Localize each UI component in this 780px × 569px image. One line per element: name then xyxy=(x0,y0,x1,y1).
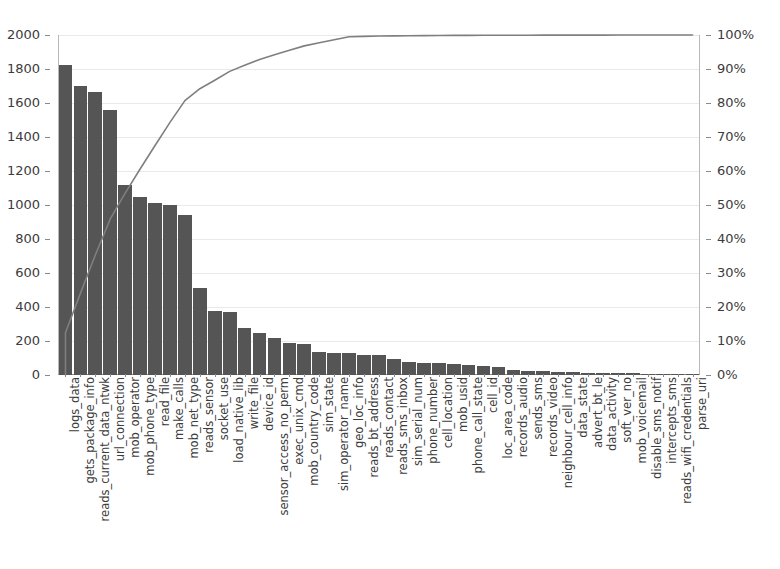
x-axis-tick-label: reads_contact xyxy=(384,377,396,458)
y-axis-right-tick-label: 90% xyxy=(717,62,746,75)
x-axis-labels: logs_datagets_package_inforeads_current_… xyxy=(58,377,700,567)
x-axis-tick-label: sends_sms xyxy=(533,377,545,440)
x-axis-tick-label: exec_unix_cmd xyxy=(294,377,306,465)
x-axis-tick-label: phone_number xyxy=(428,377,440,464)
y-axis-right-tick xyxy=(706,137,711,138)
x-axis-tick xyxy=(454,374,455,377)
y-axis-left-tick xyxy=(45,69,50,70)
x-axis-tick-label: records_audio xyxy=(518,377,530,457)
x-axis-tick-label: mob_country_code xyxy=(309,377,321,486)
y-axis-right-tick-label: 40% xyxy=(717,232,746,245)
y-axis-left-tick-label: 1400 xyxy=(7,130,40,143)
x-axis-tick xyxy=(289,374,290,377)
y-axis-left-tick xyxy=(45,375,50,376)
y-axis-left-tick xyxy=(45,307,50,308)
y-axis-right-tick xyxy=(706,35,711,36)
x-axis-tick-label: mob_voicemail xyxy=(637,377,649,463)
x-axis-tick-label: reads_sensor xyxy=(204,377,216,453)
x-axis-tick xyxy=(110,374,111,377)
x-axis-tick-label: disable_sms_notif xyxy=(652,377,664,479)
x-axis-tick-label: cell_location xyxy=(443,377,455,448)
x-axis-tick xyxy=(364,374,365,377)
x-axis-tick xyxy=(65,374,66,377)
y-axis-left-tick xyxy=(45,103,50,104)
x-axis-tick xyxy=(484,374,485,377)
x-axis-tick-label: write_file xyxy=(249,377,261,429)
y-axis-left-tick-label: 200 xyxy=(15,334,40,347)
x-axis-tick-label: data_activity xyxy=(607,377,619,451)
x-axis-tick xyxy=(319,374,320,377)
x-axis-tick xyxy=(170,374,171,377)
y-axis-right: 0%10%20%30%40%50%60%70%80%90%100% xyxy=(706,35,766,375)
y-axis-left-tick xyxy=(45,273,50,274)
y-axis-left-tick xyxy=(45,35,50,36)
y-axis-right-tick xyxy=(706,69,711,70)
x-axis-tick-label: cell_id xyxy=(488,377,500,413)
x-axis-tick-label: soft_ver_no xyxy=(622,377,634,443)
y-axis-right-tick xyxy=(706,239,711,240)
y-axis-left-tick-label: 1800 xyxy=(7,62,40,75)
x-axis-tick xyxy=(618,374,619,377)
x-axis-tick-label: reads_wifi_credentials xyxy=(682,377,694,504)
x-axis-tick xyxy=(573,374,574,377)
x-axis-tick-label: logs_data xyxy=(70,377,82,432)
x-axis-tick-label: sim_state xyxy=(324,377,336,432)
y-axis-right-tick xyxy=(706,375,711,376)
y-axis-left-tick-label: 1200 xyxy=(7,164,40,177)
y-axis-right-tick xyxy=(706,307,711,308)
y-axis-right-tick xyxy=(706,205,711,206)
x-axis-tick-label: url_connection xyxy=(115,377,127,461)
x-axis-tick-label: device_id xyxy=(264,377,276,431)
y-axis-left-tick-label: 2000 xyxy=(7,28,40,41)
x-axis-tick-label: mob_usid xyxy=(458,377,470,432)
y-axis-left-tick-label: 400 xyxy=(15,300,40,313)
x-axis-tick xyxy=(469,374,470,377)
y-axis-left-tick xyxy=(45,239,50,240)
y-axis-right-tick-label: 50% xyxy=(717,198,746,211)
x-axis-tick xyxy=(633,374,634,377)
y-axis-left-tick xyxy=(45,341,50,342)
y-axis-left-tick xyxy=(45,205,50,206)
y-axis-right-tick-label: 60% xyxy=(717,164,746,177)
x-axis-tick xyxy=(274,374,275,377)
x-axis-tick xyxy=(200,374,201,377)
x-axis-tick xyxy=(125,374,126,377)
y-axis-left-tick xyxy=(45,171,50,172)
y-axis-right-tick xyxy=(706,273,711,274)
x-axis-tick xyxy=(379,374,380,377)
y-axis-right-tick xyxy=(706,341,711,342)
x-axis-tick-label: parse_uri xyxy=(697,377,709,430)
x-axis-tick xyxy=(230,374,231,377)
y-axis-left-tick-label: 800 xyxy=(15,232,40,245)
x-axis-tick-label: loc_area_code xyxy=(503,377,515,458)
x-axis-tick-label: sim_serial_num xyxy=(413,377,425,466)
x-axis-tick xyxy=(424,374,425,377)
x-axis-tick xyxy=(245,374,246,377)
x-axis-tick-label: mob_net_type xyxy=(189,377,201,459)
x-axis-tick-label: reads_bt_address xyxy=(369,377,381,477)
x-axis-tick-label: records_video xyxy=(548,377,560,457)
cumulative-line xyxy=(65,35,692,375)
x-axis-tick-label: load_native_lib xyxy=(234,377,246,463)
plot-area xyxy=(58,35,700,375)
x-axis-tick xyxy=(498,374,499,377)
x-axis-tick xyxy=(334,374,335,377)
pareto-chart: 0200400600800100012001400160018002000 0%… xyxy=(0,0,780,569)
y-axis-right-tick xyxy=(706,103,711,104)
y-axis-left-tick-label: 1000 xyxy=(7,198,40,211)
x-axis-tick xyxy=(349,374,350,377)
x-axis-tick xyxy=(588,374,589,377)
x-axis-tick-label: phone_call_state xyxy=(473,377,485,473)
x-axis-tick-label: data_state xyxy=(578,377,590,438)
cumulative-line-layer xyxy=(58,35,700,375)
y-axis-left-tick-label: 600 xyxy=(15,266,40,279)
y-axis-right-tick-label: 70% xyxy=(717,130,746,143)
x-axis-tick-label: sensor_access_no_perm xyxy=(279,377,291,516)
x-axis-tick-label: socket_use xyxy=(219,377,231,440)
x-axis-tick-label: reads_sms_inbox xyxy=(398,377,410,475)
x-axis-tick xyxy=(678,374,679,377)
y-axis-right-tick-label: 30% xyxy=(717,266,746,279)
x-axis-tick xyxy=(693,374,694,377)
x-axis-tick xyxy=(304,374,305,377)
x-axis-tick-label: gets_package_info xyxy=(85,377,97,484)
